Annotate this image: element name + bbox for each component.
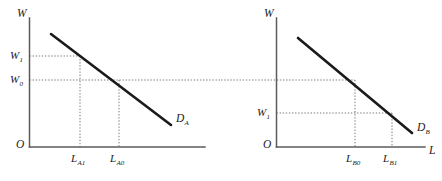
chart-b-xtick-lb0-sub: B0 [352, 159, 360, 167]
chart-a-curve-label: DA [176, 113, 189, 125]
chart-b-curve-label-base: D [417, 121, 425, 133]
chart-b-y-axis-title: W [264, 8, 274, 20]
chart-a-curve-label-base: D [176, 112, 184, 124]
chart-a-ytick-w0: W0 [10, 74, 23, 85]
chart-b-curve-label-sub: B [426, 128, 430, 136]
chart-a-xtick-la1: LA1 [71, 153, 85, 164]
chart-b-ytick-w1-base: W [257, 106, 266, 118]
chart-a-xtick-la1-sub: A1 [77, 159, 85, 167]
chart-a-demand-curve [51, 34, 171, 125]
chart-b-ytick-w1: W1 [257, 107, 270, 118]
chart-b-xtick-lb1: LB1 [383, 153, 397, 164]
chart-a-ytick-w0-base: W [10, 73, 19, 85]
chart-a-xtick-la0: LA0 [110, 153, 124, 164]
chart-a-y-axis-title: W [17, 8, 27, 20]
chart-a-group [30, 18, 222, 147]
chart-b-x-axis-title: L [429, 145, 435, 157]
chart-b-ytick-w1-sub: 1 [266, 113, 270, 121]
chart-a-ytick-w1-base: W [10, 49, 19, 61]
chart-a-curve-label-sub: A [185, 119, 189, 127]
chart-b-group [221, 18, 425, 147]
chart-a-origin-label: O [16, 139, 24, 151]
chart-b-xtick-lb0: LB0 [346, 153, 360, 164]
chart-a-xtick-la0-sub: A0 [116, 159, 124, 167]
chart-b-origin-label: O [263, 139, 271, 151]
chart-a-ytick-w1-sub: 1 [19, 56, 23, 64]
figure-root: W O W1 W0 LA1 LA0 DA W O L W1 LB0 LB1 DB [0, 0, 442, 181]
chart-b-xtick-lb1-sub: B1 [389, 159, 397, 167]
chart-a-ytick-w1: W1 [10, 50, 23, 61]
chart-a-ytick-w0-sub: 0 [19, 80, 23, 88]
chart-b-demand-curve [298, 38, 412, 133]
chart-b-curve-label: DB [417, 122, 430, 134]
figure-canvas [0, 0, 442, 181]
